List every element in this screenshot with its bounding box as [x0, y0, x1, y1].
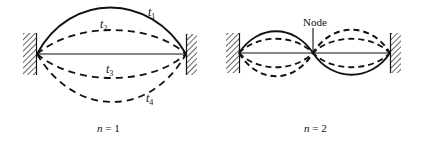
panel-n1: t1 t2 t3 t4 n = 1	[23, 5, 197, 134]
caption-n2: n = 2	[304, 122, 327, 134]
label-t1: t1	[148, 5, 155, 21]
node-label: Node	[303, 16, 327, 28]
curve-t4	[37, 54, 186, 102]
left-wall-hatch	[226, 33, 239, 73]
standing-wave-diagram: t1 t2 t3 t4 n = 1 Node n = 2	[0, 0, 423, 168]
curve-t1	[37, 8, 186, 55]
panel-n2: Node n = 2	[226, 16, 401, 134]
left-wall-hatch	[23, 33, 36, 75]
curve-t2	[37, 30, 186, 54]
label-t4: t4	[146, 91, 153, 107]
label-t3: t3	[106, 62, 113, 78]
right-wall-hatch	[391, 33, 401, 73]
label-t2: t2	[100, 17, 107, 33]
caption-n1: n = 1	[97, 122, 120, 134]
right-wall-hatch	[187, 34, 197, 75]
